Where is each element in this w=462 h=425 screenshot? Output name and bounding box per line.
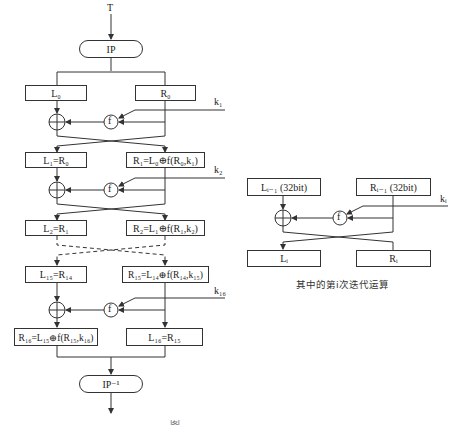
iteration-caption: 其中的第i次迭代运算 <box>296 277 389 291</box>
key-k16-label: k₁₆ <box>214 285 226 296</box>
ip-inverse-block: IP⁻¹ <box>79 375 143 393</box>
l0-box: L₀ <box>25 85 87 101</box>
ip-block: IP <box>79 40 143 58</box>
r15-box: R₁₅=L₁₄⊕f(R₁₄,k₁₅) <box>122 266 209 283</box>
l16-box: L₁₆=R₁₅ <box>126 328 203 346</box>
li-minus-1-box: Lᵢ₋₁ (32bit) <box>247 178 321 196</box>
l2-box: L₂=R₁ <box>25 220 87 236</box>
key-k1-label: k₁ <box>214 96 223 107</box>
l15-box: L₁₅=R₁₄ <box>25 266 87 283</box>
r1-box: R₁=L₀⊕f(R₀,k₁) <box>126 152 205 168</box>
ri-box: Rᵢ <box>356 250 431 267</box>
r2-box: R₂=L₁⊕f(R₁,k₂) <box>126 220 205 236</box>
ri-minus-1-box: Rᵢ₋₁ (32bit) <box>356 178 431 196</box>
r0-box: R₀ <box>135 85 196 101</box>
diagram-lines <box>0 0 462 425</box>
figure-caption: 图 <box>170 420 320 425</box>
input-label: T <box>107 2 113 13</box>
r16-box: R₁₆=L₁₅⊕f(R₁₅,k₁₆) <box>14 328 98 346</box>
l1-box: L₁=R₀ <box>25 152 87 168</box>
key-ki-label: kᵢ <box>440 193 447 204</box>
f-function-label: f <box>108 115 111 126</box>
f-function-label: f <box>337 211 340 222</box>
li-box: Lᵢ <box>247 250 321 267</box>
f-function-label: f <box>108 183 111 194</box>
key-k2-label: k₂ <box>214 164 223 175</box>
f-function-label: f <box>108 303 111 314</box>
